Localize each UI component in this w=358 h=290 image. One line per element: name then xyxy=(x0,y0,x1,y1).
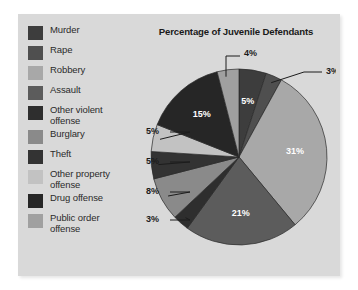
legend-swatch-rape xyxy=(28,46,43,60)
legend-swatch-public-order-offense xyxy=(28,214,43,228)
legend-item-other-violent-offense: Other violent offense xyxy=(28,105,136,126)
legend-label-robbery: Robbery xyxy=(50,65,85,76)
chart-legend: Murder Rape Robbery Assault Other violen… xyxy=(28,25,136,237)
legend-item-robbery: Robbery xyxy=(28,65,136,82)
legend-swatch-drug-offense xyxy=(28,194,43,208)
legend-item-rape: Rape xyxy=(28,45,136,62)
legend-item-drug-offense: Drug offense xyxy=(28,193,136,210)
pie-callout-label: 8% xyxy=(146,186,159,196)
pie-slice-label: 21% xyxy=(232,208,250,218)
pie-callout-label: 5% xyxy=(146,156,159,166)
legend-item-murder: Murder xyxy=(28,25,136,42)
legend-swatch-other-property-offense xyxy=(28,170,43,184)
chart-title: Percentage of Juvenile Defendants xyxy=(136,26,336,37)
pie-slice-label: 15% xyxy=(193,109,211,119)
pie-chart: 5%3%31%21%3%8%5%5%15%4% xyxy=(140,42,336,264)
legend-label-other-property-offense: Other property offense xyxy=(50,169,110,190)
legend-swatch-murder xyxy=(28,26,43,40)
legend-label-theft: Theft xyxy=(50,149,71,160)
legend-label-assault: Assault xyxy=(50,85,80,96)
legend-item-burglary: Burglary xyxy=(28,129,136,146)
legend-swatch-burglary xyxy=(28,130,43,144)
legend-item-public-order-offense: Public order offense xyxy=(28,213,136,234)
legend-item-other-property-offense: Other property offense xyxy=(28,169,136,190)
legend-label-drug-offense: Drug offense xyxy=(50,193,103,204)
figure-panel: Murder Rape Robbery Assault Other violen… xyxy=(18,14,340,276)
legend-item-theft: Theft xyxy=(28,149,136,166)
legend-label-burglary: Burglary xyxy=(50,129,85,140)
legend-label-murder: Murder xyxy=(50,25,80,36)
legend-label-other-violent-offense: Other violent offense xyxy=(50,105,103,126)
legend-swatch-other-violent-offense xyxy=(28,106,43,120)
pie-callout-label: 4% xyxy=(244,48,257,58)
legend-swatch-theft xyxy=(28,150,43,164)
legend-swatch-assault xyxy=(28,86,43,100)
legend-item-assault: Assault xyxy=(28,85,136,102)
pie-slice-label: 31% xyxy=(286,146,304,156)
pie-slice-label: 5% xyxy=(241,96,254,106)
pie-slices xyxy=(151,69,327,245)
pie-callout-label: 3% xyxy=(146,214,159,224)
legend-label-public-order-offense: Public order offense xyxy=(50,213,100,234)
legend-swatch-robbery xyxy=(28,66,43,80)
pie-chart-svg: 5%3%31%21%3%8%5%5%15%4% xyxy=(140,42,336,264)
legend-label-rape: Rape xyxy=(50,45,72,56)
pie-callout-label: 5% xyxy=(146,126,159,136)
pie-callout-label: 3% xyxy=(326,66,336,76)
